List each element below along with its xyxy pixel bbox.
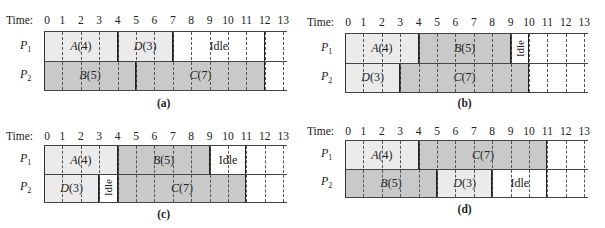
time-tick: 11: [241, 130, 252, 142]
task-label: B(5): [454, 41, 475, 56]
task-block-b: B(5): [345, 169, 437, 197]
task-label: B(5): [153, 153, 174, 168]
gantt-chart: A(4)B(5)IdleD(3)C(7): [345, 33, 588, 93]
chart-left-border: [44, 146, 45, 202]
time-tick: 11: [542, 125, 553, 137]
gantt-chart: A(4)D(3)IdleB(5)C(7): [44, 31, 287, 91]
time-tick: 12: [560, 125, 572, 137]
time-tick: 4: [416, 16, 422, 28]
time-tick: 12: [259, 14, 271, 26]
time-axis-label: Time:: [307, 125, 334, 137]
task-label: D(3): [361, 70, 384, 85]
time-tick: 1: [361, 125, 367, 137]
time-tick: 0: [44, 130, 50, 142]
time-axis-label: Time:: [307, 16, 334, 28]
task-label: D(3): [134, 39, 157, 54]
time-tick: 5: [434, 125, 440, 137]
time-tick: 8: [188, 130, 194, 142]
idle-block: Idle: [492, 169, 547, 197]
processor-label-p1: P1: [321, 39, 332, 55]
time-tick: 8: [489, 16, 495, 28]
time-tick: 1: [361, 16, 367, 28]
task-label: D(3): [453, 176, 476, 191]
task-label: B(5): [79, 68, 100, 83]
time-tick: 2: [379, 125, 385, 137]
time-tick: 4: [416, 125, 422, 137]
time-tick: 12: [259, 130, 271, 142]
task-label: C(7): [189, 68, 211, 83]
processor-label-p1: P1: [20, 151, 31, 167]
time-tick: 9: [207, 130, 213, 142]
time-axis-label: Time:: [6, 14, 33, 26]
gantt-chart: A(4)B(5)IdleD(3)IdleC(7): [44, 145, 287, 203]
task-label: B(5): [380, 176, 401, 191]
time-tick: 6: [152, 14, 158, 26]
task-block-d: D(3): [44, 174, 99, 202]
time-tick: 8: [489, 125, 495, 137]
time-tick: 2: [78, 130, 84, 142]
time-tick: 9: [508, 16, 514, 28]
task-label: D(3): [60, 181, 83, 196]
time-tick: 3: [96, 14, 102, 26]
row-separator: [44, 174, 287, 175]
idle-block: Idle: [173, 32, 265, 61]
task-label: C(7): [171, 181, 193, 196]
time-tick: 12: [560, 16, 572, 28]
panel-caption: (d): [458, 203, 472, 215]
time-tick: 11: [241, 14, 252, 26]
time-tick: 0: [44, 14, 50, 26]
time-tick: 10: [523, 16, 535, 28]
processor-label-p2: P2: [321, 68, 332, 84]
task-block-b: B(5): [118, 146, 210, 174]
gantt-panel-d: Time:012345678910111213A(4)C(7)B(5)D(3)I…: [305, 115, 605, 225]
idle-label: Idle: [510, 176, 529, 191]
time-tick: 13: [578, 16, 590, 28]
time-axis-label: Time:: [6, 130, 33, 142]
panel-caption: (b): [458, 97, 472, 109]
processor-label-p2: P2: [20, 179, 31, 195]
processor-label-p1: P1: [321, 146, 332, 162]
time-tick: 0: [345, 16, 351, 28]
time-tick: 6: [453, 125, 459, 137]
gantt-chart: A(4)C(7)B(5)D(3)Idle: [345, 140, 588, 198]
time-tick: 4: [115, 14, 121, 26]
time-tick: 5: [133, 14, 139, 26]
time-tick: 13: [277, 14, 289, 26]
row-separator: [345, 169, 588, 170]
task-block-b: B(5): [44, 61, 136, 90]
row-separator: [44, 61, 287, 62]
time-tick: 4: [115, 130, 121, 142]
time-tick: 10: [222, 14, 234, 26]
time-tick: 13: [578, 125, 590, 137]
task-block-d: D(3): [345, 63, 400, 92]
time-tick: 0: [345, 125, 351, 137]
time-tick: 10: [222, 130, 234, 142]
processor-label-p2: P2: [321, 174, 332, 190]
chart-left-border: [345, 141, 346, 197]
time-tick: 5: [434, 16, 440, 28]
time-tick: 9: [508, 125, 514, 137]
time-tick: 7: [471, 16, 477, 28]
task-label: C(7): [472, 148, 494, 163]
idle-label: Idle: [102, 179, 114, 196]
processor-label-p2: P2: [20, 66, 31, 82]
task-block-b: B(5): [419, 34, 511, 63]
panel-caption: (c): [157, 208, 170, 220]
time-tick: 2: [78, 14, 84, 26]
time-tick: 3: [397, 125, 403, 137]
chart-left-border: [44, 32, 45, 90]
panel-caption: (a): [157, 97, 170, 109]
time-tick: 7: [471, 125, 477, 137]
idle-label: Idle: [209, 39, 228, 54]
time-tick: 6: [152, 130, 158, 142]
idle-block: Idle: [99, 174, 117, 202]
gantt-panel-a: Time:012345678910111213A(4)D(3)IdleB(5)C…: [0, 0, 300, 110]
time-tick: 7: [170, 14, 176, 26]
gantt-panel-c: Time:012345678910111213A(4)B(5)IdleD(3)I…: [0, 115, 300, 225]
time-tick: 13: [277, 130, 289, 142]
row-separator: [345, 63, 588, 64]
time-tick: 8: [188, 14, 194, 26]
time-tick: 3: [96, 130, 102, 142]
time-tick: 3: [397, 16, 403, 28]
task-label: C(7): [454, 70, 476, 85]
